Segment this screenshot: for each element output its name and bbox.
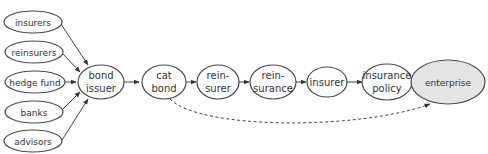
node-label: enterprise xyxy=(425,78,472,88)
node-label-line1: rein- xyxy=(207,70,230,81)
node-hedge-fund: hedge fund xyxy=(5,71,65,93)
node-label-line1: insurance xyxy=(363,70,412,81)
node-label: hedge fund xyxy=(9,78,60,88)
node-insurance-policy: insurance policy xyxy=(362,64,412,100)
node-insurers: insurers xyxy=(4,11,62,33)
node-banks: banks xyxy=(5,101,63,123)
node-label-line2: surance xyxy=(253,83,293,94)
node-label-line2: issuer xyxy=(86,83,117,94)
node-label: reinsurers xyxy=(11,48,56,58)
node-label-line1: rein- xyxy=(262,70,285,81)
dashed-edge-cat-bond-to-enterprise xyxy=(170,99,430,123)
node-advisors: advisors xyxy=(4,130,62,152)
node-label-line2: policy xyxy=(372,83,402,94)
node-label: insurers xyxy=(15,18,51,28)
edge-banks-to-bond-issuer xyxy=(62,92,80,110)
node-label: advisors xyxy=(14,137,52,147)
node-reinsurer: rein- surer xyxy=(197,65,239,99)
node-label: insurer xyxy=(310,77,346,88)
edge-advisors-to-bond-issuer xyxy=(62,99,88,140)
edge-insurers-to-bond-issuer xyxy=(61,24,88,65)
node-label-line1: bond xyxy=(88,70,113,81)
node-label-line2: surer xyxy=(205,83,232,94)
node-label: banks xyxy=(21,108,48,118)
cat-bond-flow-diagram: insurers reinsurers hedge fund banks adv… xyxy=(0,0,488,154)
node-reinsurers: reinsurers xyxy=(5,41,63,63)
node-enterprise: enterprise xyxy=(411,60,485,104)
edge-reinsurers-to-bond-issuer xyxy=(63,54,80,72)
node-bond-issuer: bond issuer xyxy=(78,65,124,99)
node-reinsurance: rein- surance xyxy=(250,65,296,99)
node-insurer: insurer xyxy=(307,67,347,97)
node-label-line1: cat xyxy=(156,70,172,81)
node-label-line2: bond xyxy=(151,83,176,94)
node-cat-bond: cat bond xyxy=(142,65,186,99)
